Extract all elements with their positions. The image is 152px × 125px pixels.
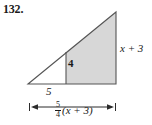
geometry-figure: 132. x + 3 4 5 5 4 (x + 3) [0,0,152,125]
dimension-arrow-left-icon [31,104,38,110]
label-inner-height: 4 [68,57,74,69]
fraction-five-fourths: 5 4 [55,101,61,119]
fraction-numerator: 5 [55,101,61,109]
base-expression: (x + 3) [62,104,93,116]
dimension-arrow-right-icon [107,104,114,110]
shaded-region [66,12,116,84]
label-right-side: x + 3 [120,42,143,54]
label-base-segment: 5 [46,85,52,97]
fraction-denominator: 4 [55,111,61,119]
label-total-base: 5 4 (x + 3) [55,101,93,119]
